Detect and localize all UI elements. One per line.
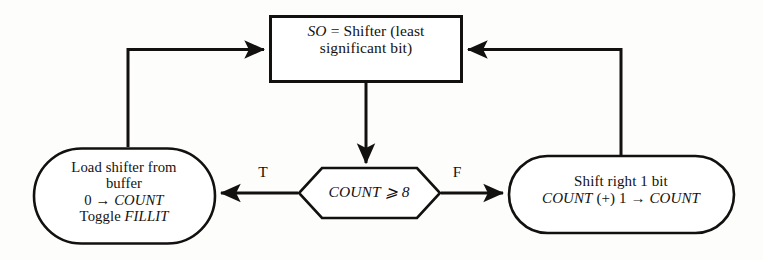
decision-operator: ⩾: [385, 183, 398, 200]
shift-line-2-italic-b: COUNT: [649, 190, 700, 206]
shift-line-1: Shift right 1 bit: [506, 173, 736, 190]
so-line2: significant bit): [270, 39, 462, 56]
load-line-4-plain: Toggle: [80, 208, 125, 224]
load-shifter-oval-label: Load shifter from buffer 0 → COUNT Toggl…: [33, 159, 215, 225]
edge-left-oval-to-box-line: [128, 50, 264, 148]
so-rest: = Shifter (least: [327, 22, 425, 39]
load-line-4-italic: FILLIT: [125, 208, 169, 224]
shift-line-2-italic-a: COUNT: [542, 190, 593, 206]
decision-value: 8: [402, 183, 410, 200]
load-line-1: Load shifter from: [33, 159, 215, 175]
branch-label-true: T: [253, 163, 273, 181]
shift-line-2-plain: (+) 1 →: [593, 190, 650, 206]
shift-right-oval-label: Shift right 1 bit COUNT (+) 1 → COUNT: [506, 173, 736, 207]
load-line-3-italic: COUNT: [114, 192, 163, 208]
load-line-3-plain: 0 →: [84, 192, 114, 208]
edge-right-oval-to-box-line: [468, 50, 621, 156]
load-line-2: buffer: [33, 175, 215, 191]
flowchart-canvas: SO = Shifter (least significant bit) Loa…: [0, 0, 763, 260]
count-italic: COUNT: [328, 183, 380, 200]
branch-label-false: F: [447, 163, 467, 181]
count-decision-label: COUNT ⩾ 8: [298, 183, 440, 200]
so-shifter-box-label: SO = Shifter (least significant bit): [270, 22, 462, 57]
so-italic: SO: [308, 22, 327, 39]
